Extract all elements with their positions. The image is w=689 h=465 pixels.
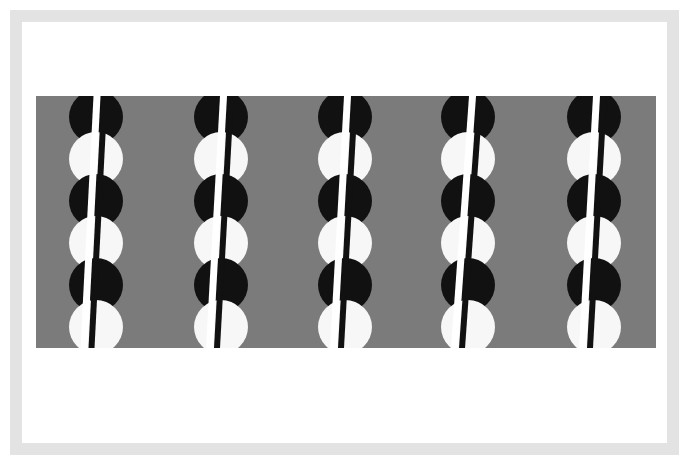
gray-field [36, 96, 656, 348]
artwork-canvas [0, 0, 689, 465]
column-5 [36, 96, 656, 348]
